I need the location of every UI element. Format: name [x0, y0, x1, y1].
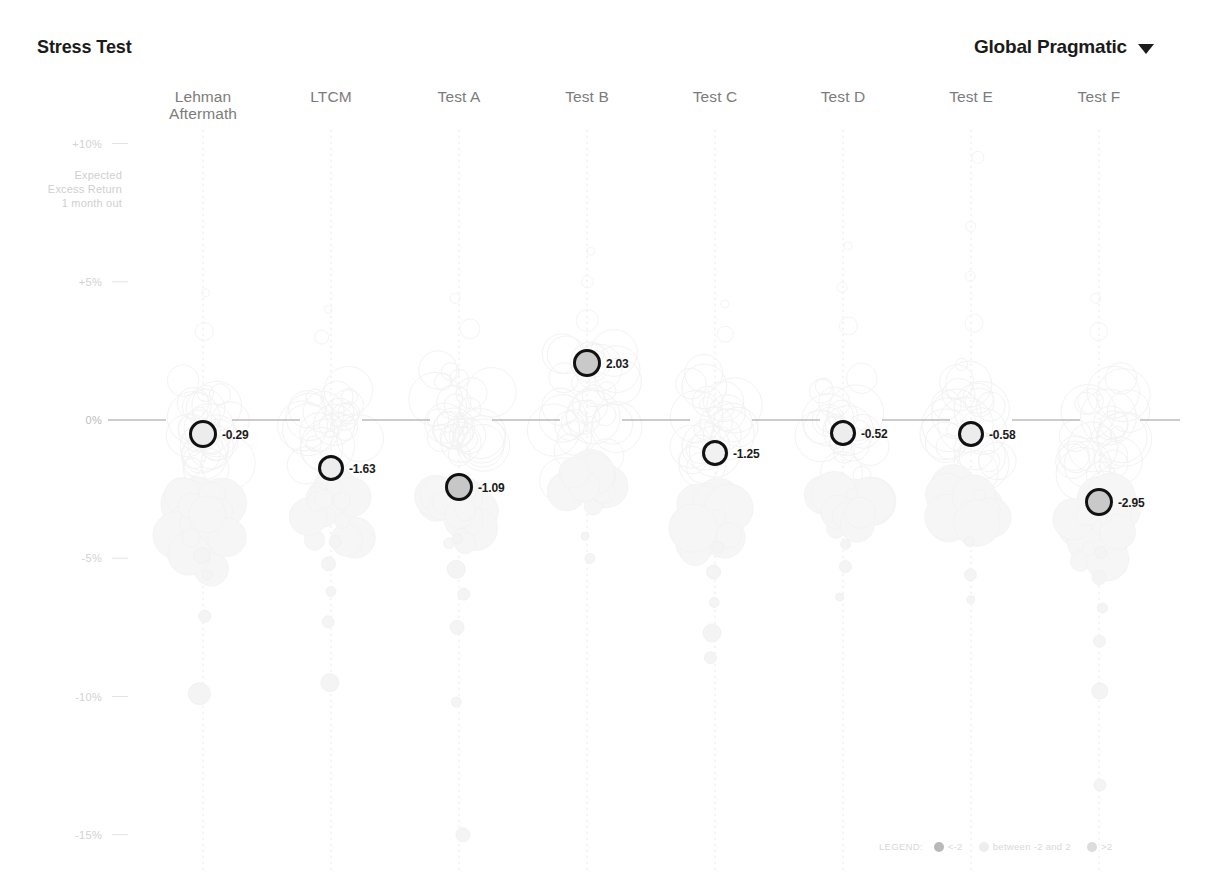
legend-swatch-icon: [934, 842, 944, 852]
legend-swatch-icon: [1087, 842, 1097, 852]
swarm-column: [153, 289, 255, 705]
y-axis-tick-label: +10%: [40, 138, 102, 150]
y-axis-tick-label: +5%: [40, 276, 102, 288]
data-point-label: -0.52: [861, 427, 887, 441]
data-point-marker[interactable]: [830, 420, 856, 446]
y-axis-tick-label: -10%: [40, 691, 102, 703]
data-point-label: -1.63: [349, 462, 375, 476]
legend-title: LEGEND:: [879, 841, 923, 852]
data-point-label: -0.29: [222, 428, 248, 442]
swarm-column: [527, 247, 641, 563]
swarm-column: [920, 151, 1016, 603]
y-axis-ticks: [112, 144, 128, 835]
legend-item: between -2 and 2: [979, 841, 1071, 852]
y-axis-title: Expected Excess Return 1 month out: [22, 168, 122, 210]
legend-item: >2: [1087, 841, 1112, 852]
data-point-label: -1.25: [733, 447, 759, 461]
column-header-8[interactable]: Test F: [1024, 88, 1174, 105]
legend-item-label: <-2: [948, 841, 963, 852]
legend-item: <-2: [934, 841, 963, 852]
legend-swatch-icon: [979, 842, 989, 852]
data-point-marker[interactable]: [1085, 488, 1113, 516]
legend-item-label: >2: [1101, 841, 1112, 852]
data-point-label: -2.95: [1118, 496, 1144, 510]
y-axis-tick-label: -15%: [40, 829, 102, 841]
data-point-marker[interactable]: [318, 455, 344, 481]
swarm-column: [669, 300, 762, 664]
swarm-column: [409, 293, 516, 842]
stress-test-page: Stress Test Global Pragmatic +10%+5%0%-5…: [0, 0, 1206, 894]
data-point-marker[interactable]: [573, 349, 601, 377]
stress-test-chart: [0, 0, 1206, 894]
legend-item-label: between -2 and 2: [993, 841, 1071, 852]
chart-legend: LEGEND: <-2between -2 and 2>2: [879, 841, 1121, 852]
y-axis-tick-label: -5%: [40, 552, 102, 564]
data-point-label: 2.03: [606, 357, 629, 371]
data-point-label: -0.58: [989, 428, 1015, 442]
data-point-marker[interactable]: [958, 421, 984, 447]
data-point-marker[interactable]: [445, 473, 473, 501]
data-point-marker[interactable]: [189, 420, 217, 448]
data-point-marker[interactable]: [702, 440, 728, 466]
y-axis-tick-label: 0%: [40, 414, 102, 426]
swarm-column: [1053, 293, 1152, 791]
data-point-label: -1.09: [478, 481, 504, 495]
